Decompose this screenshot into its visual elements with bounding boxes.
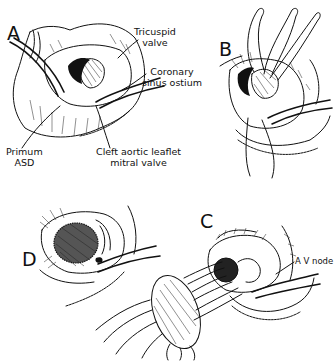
label-coronary-sinus-ostium: Coronary sinus ostium: [142, 66, 202, 88]
label-primum-line1: Primum: [6, 146, 43, 157]
label-coronary-line2: sinus ostium: [142, 77, 202, 88]
label-primum-line2: ASD: [6, 157, 43, 168]
panel-d-letter: D: [22, 250, 37, 269]
label-av-node: A V node: [295, 256, 333, 267]
label-cleft-line2: mitral valve: [96, 157, 181, 168]
label-tricuspid-valve: Tricuspid valve: [134, 26, 176, 48]
label-tricuspid-line2: valve: [134, 37, 176, 48]
panel-b-letter: B: [219, 40, 232, 59]
label-tricuspid-line1: Tricuspid: [134, 26, 176, 37]
surgical-illustration: A B C D Tricuspid valve Coronary sinus o…: [0, 0, 334, 361]
panel-a-letter: A: [7, 24, 20, 43]
label-primum-asd: Primum ASD: [6, 146, 43, 168]
panel-b-drawing: [220, 8, 332, 178]
label-cleft-line1: Cleft aortic leaflet: [96, 146, 181, 157]
label-cleft-mitral: Cleft aortic leaflet mitral valve: [96, 146, 181, 168]
label-coronary-line1: Coronary: [142, 66, 202, 77]
illustration-drawing: [0, 0, 334, 361]
panel-c-letter: C: [200, 212, 213, 231]
panel-c-drawing: [96, 226, 320, 360]
panel-d-drawing: [40, 206, 160, 306]
